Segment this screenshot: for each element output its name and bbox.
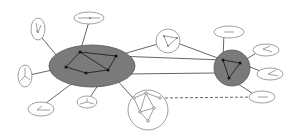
- sat-right-top: [214, 26, 244, 38]
- node: [85, 72, 88, 75]
- sat-right-2: [257, 68, 283, 80]
- node: [222, 59, 225, 62]
- node: [79, 51, 82, 54]
- node: [239, 62, 242, 65]
- node: [65, 66, 68, 69]
- edge-topcenter-to-small: [180, 44, 223, 60]
- sat-bottom-left: [28, 102, 54, 116]
- cluster-network-diagram: [0, 0, 301, 136]
- sat-bottom: [77, 96, 97, 108]
- sat-bottom-right: [249, 91, 275, 103]
- sat-top-left: [31, 18, 45, 40]
- small-cluster: [214, 50, 250, 86]
- sat-top-center: [156, 29, 180, 53]
- sat-left: [18, 65, 32, 87]
- node: [115, 55, 118, 58]
- sat-bottom-center: [128, 90, 168, 130]
- node: [107, 69, 110, 72]
- edge-big-to-small-lower: [125, 73, 215, 74]
- sat-top: [74, 12, 104, 24]
- node: [228, 77, 231, 80]
- edge-dashed: [160, 97, 258, 98]
- sat-right-1: [253, 44, 279, 56]
- big-cluster: [49, 45, 135, 87]
